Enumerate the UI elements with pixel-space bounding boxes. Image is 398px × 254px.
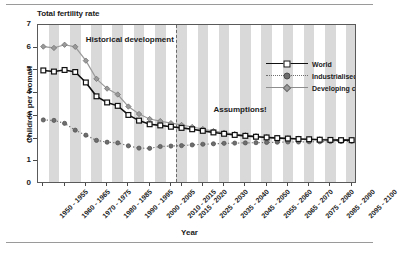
x-tick-mark	[106, 183, 107, 186]
y-tick-label: 1	[17, 155, 31, 164]
plot-area: Historical development Assumptions! Worl…	[37, 24, 356, 183]
circle-marker-icon	[284, 73, 291, 80]
chart-title: Total fertility rate	[37, 9, 99, 18]
top-divider-rule	[6, 4, 373, 5]
data-point	[41, 44, 46, 49]
data-point	[137, 118, 142, 123]
data-point	[307, 137, 312, 142]
data-point	[222, 141, 226, 145]
data-point	[349, 138, 354, 143]
data-point	[264, 135, 269, 140]
data-point	[243, 133, 248, 138]
data-point	[83, 80, 88, 85]
data-point	[94, 138, 98, 142]
diamond-marker-icon	[283, 84, 291, 92]
data-point	[115, 103, 120, 108]
legend-swatch-developing	[266, 83, 308, 93]
data-point	[179, 144, 183, 148]
x-tick-mark	[287, 183, 288, 186]
legend-item-world[interactable]: World	[266, 58, 356, 70]
data-point	[190, 127, 195, 132]
data-point	[126, 144, 130, 148]
y-tick-label: 5	[17, 64, 31, 73]
legend-label-developing: Developing countries	[312, 85, 356, 92]
data-point	[73, 128, 77, 132]
data-point	[148, 146, 152, 150]
legend-item-industrialised[interactable]: Industrialised countries	[266, 70, 356, 82]
data-point	[222, 131, 227, 136]
data-point	[201, 142, 205, 146]
data-point	[328, 138, 333, 143]
x-tick-mark	[170, 183, 171, 186]
data-point	[233, 141, 237, 145]
y-tick-label: 3	[17, 110, 31, 119]
data-point	[51, 45, 56, 50]
legend-label-world: World	[312, 61, 332, 68]
data-point	[179, 126, 184, 131]
legend-label-industrialised: Industrialised countries	[312, 73, 356, 80]
y-tick-label: 7	[17, 19, 31, 28]
square-marker-icon	[284, 61, 291, 68]
data-point	[158, 144, 162, 148]
data-point	[84, 133, 88, 137]
data-point	[190, 143, 194, 147]
data-point	[62, 121, 66, 125]
annotation-assumptions: Assumptions!	[213, 105, 266, 114]
data-point	[105, 100, 110, 105]
data-point	[126, 113, 131, 118]
data-point	[211, 142, 215, 146]
x-tick-mark	[85, 183, 86, 186]
data-point	[52, 69, 57, 74]
data-point	[105, 140, 109, 144]
x-tick-mark	[266, 183, 267, 186]
data-point	[147, 116, 152, 121]
data-point	[116, 141, 120, 145]
x-axis-label: Year	[0, 228, 379, 237]
data-point	[62, 68, 67, 73]
data-point	[243, 141, 247, 145]
legend-swatch-industrialised	[266, 71, 308, 81]
x-tick-mark	[308, 183, 309, 186]
y-tick-label: 0	[17, 178, 31, 187]
y-tick-label: 6	[17, 42, 31, 51]
data-point	[73, 70, 78, 75]
data-point	[211, 130, 216, 135]
x-tick-mark	[42, 183, 43, 186]
y-tick-label: 4	[17, 87, 31, 96]
annotation-historical-development: Historical development	[86, 35, 174, 44]
x-tick-mark	[329, 183, 330, 186]
series-layer	[38, 25, 356, 183]
data-point	[254, 134, 259, 139]
data-point	[200, 128, 205, 133]
legend-swatch-world	[266, 59, 308, 69]
data-point	[317, 137, 322, 142]
x-tick-mark	[351, 183, 352, 186]
x-tick-mark	[223, 183, 224, 186]
data-point	[41, 68, 46, 73]
data-point	[296, 137, 301, 142]
data-point	[94, 94, 99, 99]
data-point	[232, 133, 237, 138]
x-tick-mark	[244, 183, 245, 186]
legend-item-developing[interactable]: Developing countries	[266, 82, 356, 94]
x-tick-mark	[202, 183, 203, 186]
data-point	[169, 124, 174, 129]
data-point	[41, 118, 45, 122]
data-point	[285, 136, 290, 141]
data-point	[254, 141, 258, 145]
x-tick-mark	[149, 183, 150, 186]
y-axis-label: Children per woman	[25, 45, 34, 165]
data-point	[62, 42, 67, 47]
data-point	[137, 146, 141, 150]
data-point	[339, 138, 344, 143]
chart-legend: World Industrialised countries Developin…	[266, 58, 356, 94]
x-tick-mark	[127, 183, 128, 186]
x-tick-mark	[181, 183, 182, 186]
data-point	[169, 144, 173, 148]
data-point	[147, 122, 152, 127]
data-point	[158, 123, 163, 128]
data-point	[265, 140, 269, 144]
data-point	[52, 118, 56, 122]
series-line-industrialised-countries	[43, 120, 351, 148]
